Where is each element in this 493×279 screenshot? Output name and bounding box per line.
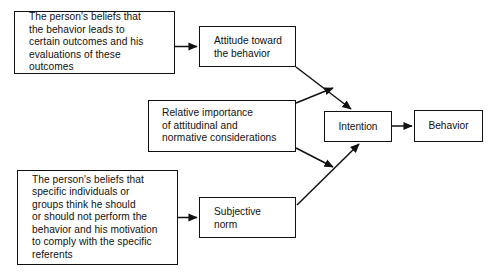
node-attitude-toward-behavior: Attitude toward the behavior xyxy=(199,26,296,67)
node-relative-importance: Relative importance of attitudinal and n… xyxy=(148,100,296,152)
edge-attitude-to-intention xyxy=(296,67,351,109)
node-normative-beliefs: The person's beliefs that specific indiv… xyxy=(17,170,178,265)
node-subjective-norm: Subjective norm xyxy=(199,197,296,238)
diagram-canvas: The person's beliefs that the behavior l… xyxy=(0,0,493,279)
edge-subjectivenorm-to-intention xyxy=(297,144,359,205)
node-behavior: Behavior xyxy=(414,110,483,142)
node-behavioral-beliefs: The person's beliefs that the behavior l… xyxy=(14,11,175,74)
node-attitude-toward-behavior-label: Attitude toward the behavior xyxy=(200,34,295,60)
node-subjective-norm-label: Subjective norm xyxy=(200,205,295,231)
edge-importance-to-intention-upper xyxy=(296,88,333,103)
node-intention: Intention xyxy=(324,111,392,142)
node-relative-importance-label: Relative importance of attitudinal and n… xyxy=(149,107,295,144)
node-intention-label: Intention xyxy=(325,121,391,133)
edge-importance-to-intention-lower xyxy=(296,148,333,167)
node-behavior-label: Behavior xyxy=(415,120,482,132)
node-normative-beliefs-label: The person's beliefs that specific indiv… xyxy=(18,174,177,261)
node-behavioral-beliefs-label: The person's beliefs that the behavior l… xyxy=(15,11,174,73)
